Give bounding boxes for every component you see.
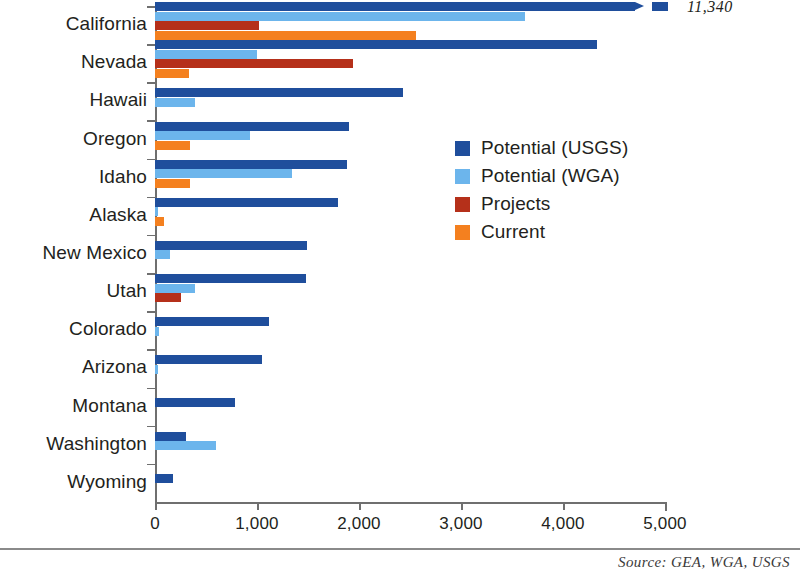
bar-wyoming-potential-usgs: [155, 474, 173, 483]
y-axis-label-arizona: Arizona: [82, 356, 147, 378]
x-axis-tick-label: 5,000: [620, 514, 710, 534]
y-axis-label-new-mexico: New Mexico: [43, 242, 147, 264]
bar-oregon-current: [155, 141, 190, 150]
bar-california-projects: [155, 21, 259, 30]
bar-alaska-potential-wga: [155, 207, 158, 216]
legend-label: Current: [481, 221, 545, 243]
bar-nevada-potential-usgs: [155, 40, 597, 49]
y-axis-tick: [147, 159, 155, 161]
bar-oregon-potential-usgs: [155, 122, 349, 131]
y-axis-tick: [147, 464, 155, 466]
geothermal-capacity-bar-chart: CaliforniaNevadaHawaiiOregonIdahoAlaskaN…: [0, 0, 800, 570]
x-axis-tick: [665, 502, 667, 511]
x-axis-tick: [563, 502, 565, 510]
legend-swatch-icon: [455, 169, 470, 184]
y-axis-tick: [147, 388, 155, 390]
broken-bar-stem: [155, 2, 635, 11]
bar-california-current: [155, 31, 416, 40]
y-axis-label-utah: Utah: [106, 280, 147, 302]
y-axis-tick: [147, 120, 155, 122]
y-axis-label-wyoming: Wyoming: [67, 471, 147, 493]
x-axis-tick: [359, 502, 361, 510]
bar-new-mexico-potential-wga: [155, 250, 170, 259]
footer-divider: [0, 548, 800, 550]
x-axis-tick: [155, 502, 157, 510]
bar-nevada-projects: [155, 59, 353, 68]
y-axis-label-nevada: Nevada: [81, 51, 147, 73]
x-axis-tick: [257, 502, 259, 510]
x-axis-line: [155, 502, 667, 504]
bar-utah-projects: [155, 293, 181, 302]
x-axis-tick-label: 1,000: [212, 514, 302, 534]
legend-swatch-icon: [455, 225, 470, 240]
y-axis-label-idaho: Idaho: [99, 166, 147, 188]
y-axis-tick: [147, 6, 155, 8]
bar-montana-potential-usgs: [155, 398, 235, 407]
plot-area: 11,340: [155, 6, 665, 496]
broken-bar-stub: [652, 2, 668, 11]
bar-oregon-potential-wga: [155, 131, 250, 140]
bar-idaho-potential-usgs: [155, 160, 347, 169]
legend-item-potential-usgs: Potential (USGS): [455, 136, 628, 160]
x-axis-tick-label: 0: [110, 514, 200, 534]
bar-utah-potential-usgs: [155, 274, 306, 283]
bar-value-annotation: 11,340: [687, 0, 733, 16]
y-axis-tick: [147, 349, 155, 351]
bar-alaska-current: [155, 217, 164, 226]
legend-swatch-icon: [455, 141, 470, 156]
y-axis-tick: [147, 44, 155, 46]
x-axis-tick-label: 3,000: [416, 514, 506, 534]
legend-label: Projects: [481, 193, 550, 215]
y-axis-tick: [147, 311, 155, 313]
legend-label: Potential (USGS): [481, 137, 628, 159]
bar-colorado-potential-wga: [155, 327, 159, 336]
bar-idaho-current: [155, 179, 190, 188]
y-axis-label-colorado: Colorado: [69, 318, 147, 340]
y-axis-label-alaska: Alaska: [89, 204, 147, 226]
y-axis-label-oregon: Oregon: [83, 128, 147, 150]
broken-bar-arrow-icon: [635, 2, 644, 10]
y-axis-label-california: California: [66, 13, 147, 35]
y-axis-labels: CaliforniaNevadaHawaiiOregonIdahoAlaskaN…: [0, 0, 147, 502]
y-axis-tick: [147, 235, 155, 237]
legend-item-current: Current: [455, 220, 628, 244]
y-axis-tick: [147, 197, 155, 199]
y-axis-label-hawaii: Hawaii: [89, 89, 147, 111]
y-axis-tick: [147, 426, 155, 428]
bar-utah-potential-wga: [155, 284, 195, 293]
bar-hawaii-potential-wga: [155, 98, 195, 107]
bar-nevada-current: [155, 69, 189, 78]
bar-hawaii-potential-usgs: [155, 88, 403, 97]
y-axis-label-montana: Montana: [72, 395, 147, 417]
legend-item-projects: Projects: [455, 192, 628, 216]
bar-arizona-potential-wga: [155, 365, 158, 374]
bar-idaho-potential-wga: [155, 169, 292, 178]
bar-colorado-potential-usgs: [155, 317, 269, 326]
bar-nevada-potential-wga: [155, 50, 257, 59]
y-axis-tick: [147, 82, 155, 84]
legend: Potential (USGS)Potential (WGA)ProjectsC…: [455, 136, 628, 248]
x-axis-tick-label: 4,000: [518, 514, 608, 534]
y-axis-tick: [147, 273, 155, 275]
bar-arizona-potential-usgs: [155, 355, 262, 364]
bar-washington-potential-usgs: [155, 432, 186, 441]
bar-new-mexico-potential-usgs: [155, 241, 307, 250]
source-note: Source: GEA, WGA, USGS: [0, 554, 790, 570]
legend-swatch-icon: [455, 197, 470, 212]
bar-california-broken-axis: [155, 2, 700, 11]
x-axis-tick-label: 2,000: [314, 514, 404, 534]
y-axis-label-washington: Washington: [46, 433, 147, 455]
legend-label: Potential (WGA): [481, 165, 620, 187]
bar-california-potential-wga: [155, 12, 525, 21]
x-axis-tick: [461, 502, 463, 510]
bar-washington-potential-wga: [155, 441, 216, 450]
legend-item-potential-wga: Potential (WGA): [455, 164, 628, 188]
bar-alaska-potential-usgs: [155, 198, 338, 207]
